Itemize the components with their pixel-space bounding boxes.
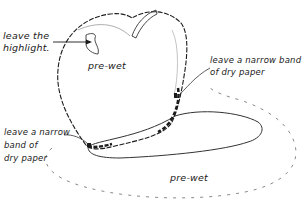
apple-watercolor-diagram: leave the highlight. pre-wet leave a nar… [0,0,305,206]
apple-inner-contour [78,25,130,36]
highlight-annotation-line1: leave the [3,30,50,42]
highlight-shape [86,34,98,54]
prewet-surface-label: pre-wet [170,172,208,184]
prewet-apple-text: pre-wet [88,60,126,72]
highlight-annotation: leave the highlight. [3,30,50,54]
left-band-annotation: leave a narrow band of dry paper [4,126,70,165]
highlight-annotation-line2: highlight. [3,42,50,54]
apple-inner-contour-right [172,30,178,95]
right-band-line2: of dry paper [210,66,301,78]
right-band-mark [174,93,177,98]
left-band-line3: dry paper [4,152,70,165]
right-band-line1: leave a narrow band [210,54,301,66]
apple-body-outline [58,12,187,149]
right-band-annotation: leave a narrow band of dry paper [210,54,301,78]
apple-stem [132,10,157,38]
arrowhead-icon [86,40,92,45]
apple-shadow-outline [88,112,262,158]
left-band-line1: leave a narrow [4,126,70,139]
prewet-apple-label: pre-wet [88,60,126,72]
prewet-surface-text: pre-wet [170,172,208,184]
left-band-line2: band of [4,139,70,152]
